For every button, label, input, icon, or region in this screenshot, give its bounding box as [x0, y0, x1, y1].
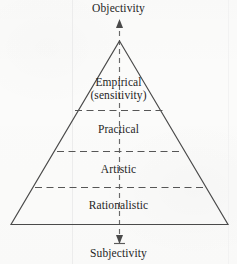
tier-label-empirical-main: Empirical — [0, 76, 237, 89]
axis-label-objectivity: Objectivity — [0, 2, 237, 15]
tier-label-practical: Practical — [0, 123, 237, 136]
figure-canvas: Objectivity Empirical (sensitivity) Prac… — [0, 0, 237, 264]
tier-label-rationalistic: Rationalistic — [0, 199, 237, 212]
tier-label-artistic: Artistic — [0, 163, 237, 176]
arrow-up-icon — [116, 19, 123, 28]
arrow-down-icon — [116, 235, 123, 244]
tier-label-empirical-sub: (sensitivity) — [0, 89, 237, 102]
tier-label-empirical: Empirical (sensitivity) — [0, 76, 237, 102]
axis-label-subjectivity: Subjectivity — [0, 247, 237, 260]
